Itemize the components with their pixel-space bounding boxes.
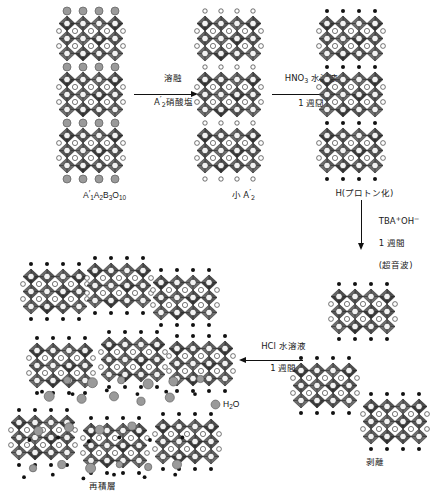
water-scatter-svg (0, 240, 240, 494)
parent-column-svg (58, 8, 140, 178)
legend-water-label: H2O (223, 399, 239, 410)
arrow-tba-line3: (超音波) (379, 260, 413, 270)
legend-water: H2O (210, 399, 239, 410)
arrow-molten-salt-shaft (134, 94, 192, 95)
arrow-label-tba-oh: TBA+OH− 1 週間 (超音波) (368, 203, 436, 282)
structure-parent-column (58, 8, 140, 178)
label-exfoliated: 剥離 (340, 446, 400, 479)
small-a-prefix: 小 (232, 190, 241, 200)
arrow-tba-head (358, 243, 364, 250)
figure-canvas: A′1A2B3O10 溶融 A′2硝酸塩 小 A′2 HNO3 水溶液 1 週間… (0, 0, 436, 494)
exfoliated-sheet-3-svg (362, 388, 432, 450)
exfoliated-text: 剥離 (366, 457, 384, 467)
label-small-a-prime: 小 A′2 (190, 177, 286, 215)
arrow-hcl-head (239, 357, 246, 363)
arrow-tba-shaft (361, 200, 362, 244)
arrow-molten-line2-rest: 硝酸塩 (166, 97, 193, 107)
arrow-label-hcl: HCl 水溶液 1 週間 (238, 330, 318, 385)
parent-phase-text: A′1A2B3O10 (83, 190, 126, 200)
protonated-text: H(プロトン化) (335, 188, 393, 198)
arrow-tba-line2: 1 週間 (379, 238, 405, 248)
exfoliated-sheet-1 (330, 278, 400, 340)
restacked-text: 再積層 (89, 481, 116, 491)
water-marker-icon (210, 399, 221, 410)
arrow-molten-line2: A′2硝酸塩 (154, 97, 193, 107)
small-a-column-svg (196, 8, 278, 178)
arrow-hcl-line2: 1 週間 (270, 363, 296, 373)
structure-protonated-column (318, 8, 400, 178)
arrow-molten-line1: 溶融 (164, 73, 182, 83)
label-restacked: 再積層 (62, 470, 132, 494)
structure-small-a-column (196, 8, 278, 178)
arrow-hcl-line1: HCl 水溶液 (261, 341, 305, 351)
exfoliated-sheet-3 (362, 388, 432, 450)
arrow-tba-line1: TBA+OH− (379, 216, 420, 226)
label-parent-phase: A′1A2B3O10 (52, 177, 148, 214)
protonated-column-svg (318, 8, 400, 178)
exfoliated-sheet-1-svg (330, 278, 400, 340)
interlayer-water-scatter (0, 240, 240, 494)
arrow-hcl-shaft (245, 360, 303, 361)
